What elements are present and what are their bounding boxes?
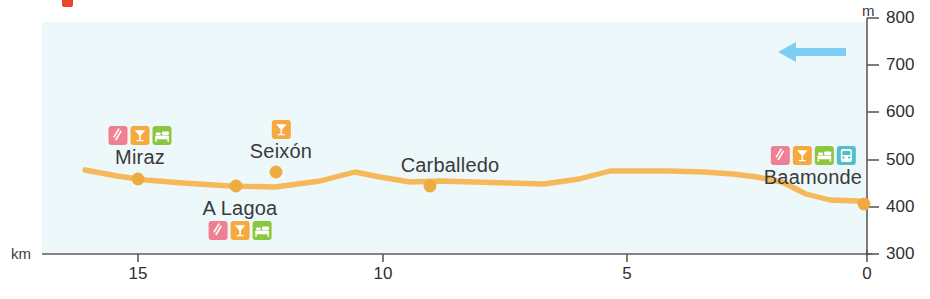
place-label-a-lagoa: A Lagoa	[203, 198, 278, 219]
marker-a-lagoa	[230, 180, 243, 193]
y-tick-300: 300	[886, 245, 914, 262]
bar-restaurant-icon	[231, 221, 250, 240]
amenity-icons-miraz	[109, 126, 172, 145]
y-axis-ticks	[867, 18, 879, 254]
bar-restaurant-icon	[131, 126, 150, 145]
place-seixon: Seixón	[250, 120, 312, 162]
y-tick-500: 500	[886, 151, 914, 168]
bar-restaurant-icon	[271, 120, 290, 139]
amenity-icons-a-lagoa	[203, 221, 278, 240]
x-tick-5: 5	[622, 265, 631, 282]
place-miraz: Miraz	[109, 126, 172, 168]
y-axis-unit-label: m	[862, 2, 875, 19]
marker-seixon	[270, 166, 283, 179]
x-axis-ticks	[138, 250, 867, 262]
pilgrim-hostel-icon	[209, 221, 228, 240]
marker-miraz	[132, 173, 145, 186]
x-tick-0: 0	[862, 265, 871, 282]
place-carballedo: Carballedo	[401, 155, 500, 176]
place-a-lagoa: A Lagoa	[203, 198, 278, 240]
direction-arrow-icon	[778, 40, 848, 64]
place-label-seixon: Seixón	[250, 141, 312, 162]
accommodation-icon	[153, 126, 172, 145]
y-tick-400: 400	[886, 198, 914, 215]
place-label-baamonde: Baamonde	[764, 167, 862, 188]
x-tick-10: 10	[374, 265, 393, 282]
marker-baamonde	[858, 198, 871, 211]
x-axis-unit-label: km	[11, 245, 31, 262]
pilgrim-hostel-icon	[109, 126, 128, 145]
y-tick-700: 700	[886, 56, 914, 73]
place-label-carballedo: Carballedo	[401, 155, 500, 176]
y-tick-800: 800	[886, 9, 914, 26]
accommodation-icon	[815, 146, 834, 165]
bar-restaurant-icon	[793, 146, 812, 165]
accommodation-icon	[253, 221, 272, 240]
y-tick-600: 600	[886, 103, 914, 120]
x-tick-15: 15	[129, 265, 148, 282]
amenity-icons-seixon	[250, 120, 312, 139]
marker-carballedo	[424, 180, 437, 193]
place-label-miraz: Miraz	[109, 147, 172, 168]
elevation-profile-chart: km m 800 700 600 500 400 300 15 10 5 0 M…	[0, 0, 930, 299]
place-baamonde: Baamonde	[764, 146, 862, 188]
bus-station-icon	[837, 146, 856, 165]
amenity-icons-baamonde	[764, 146, 862, 165]
pilgrim-hostel-icon	[771, 146, 790, 165]
